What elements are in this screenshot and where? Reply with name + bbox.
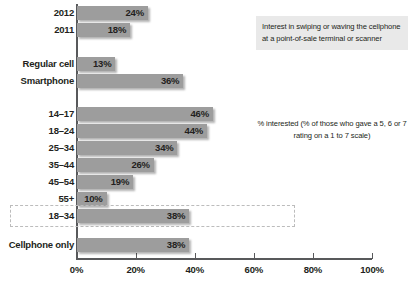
category-label: 45–54 [0,175,74,189]
chart-row: 14–1746% [0,107,414,121]
bar-value-label: 38% [167,209,185,223]
chart-row: 25–3434% [0,141,414,155]
category-label: 2012 [0,6,74,20]
chart-row: Regular cell13% [0,57,414,71]
x-tick-mark [195,253,196,259]
bar-value-label: 44% [185,124,203,138]
x-tick-label: 0% [70,264,83,275]
x-tick-mark [254,253,255,259]
bar-value-label: 34% [155,141,173,155]
category-label: 25–34 [0,141,74,155]
category-label: 18–24 [0,124,74,138]
category-label: Regular cell [0,57,74,71]
chart-row: 45–5419% [0,175,414,189]
x-tick-label: 40% [185,264,203,275]
category-label: Smartphone [0,74,74,88]
x-tick-label: 20% [126,264,144,275]
chart-row: Cellphone only38% [0,238,414,252]
chart-row: 201118% [0,23,414,37]
chart-row: 35–4426% [0,158,414,172]
chart-row: Smartphone36% [0,74,414,88]
bar-value-label: 13% [93,57,111,71]
x-tick-mark [372,253,373,259]
x-tick-label: 100% [360,264,384,275]
x-axis-line [76,258,372,260]
x-tick-label: 60% [245,264,263,275]
x-tick-label: 80% [304,264,322,275]
bar-value-label: 46% [191,107,209,121]
category-label: 18–34 [0,209,74,223]
x-tick-mark [313,253,314,259]
bar-value-label: 10% [84,192,102,206]
x-tick-mark [136,253,137,259]
bar-value-label: 18% [108,23,126,37]
bar-value-label: 36% [161,74,179,88]
bar-value-label: 38% [167,238,185,252]
category-label: 2011 [0,23,74,37]
bar-chart: Interest in swiping or waving the cellph… [0,0,414,288]
chart-row: 18–3438% [0,209,414,223]
bar-value-label: 19% [111,175,129,189]
bar-value-label: 26% [131,158,149,172]
x-tick-mark [77,253,78,259]
chart-row: 201224% [0,6,414,20]
category-label: 55+ [0,192,74,206]
chart-row: 18–2444% [0,124,414,138]
category-label: Cellphone only [0,238,74,252]
chart-row: 55+10% [0,192,414,206]
category-label: 14–17 [0,107,74,121]
bar-value-label: 24% [125,6,143,20]
category-label: 35–44 [0,158,74,172]
